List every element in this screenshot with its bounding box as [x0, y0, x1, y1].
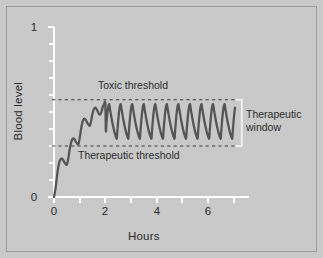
x-axis-title: Hours	[128, 230, 160, 242]
x-tick-label-2: 2	[99, 205, 111, 217]
therapeutic-threshold-label: Therapeutic threshold	[78, 149, 180, 161]
therapeutic-window-line-1: Therapeutic	[246, 108, 301, 120]
figure: Blood level Hours 1 0 0 2 4 6 Toxic thre…	[0, 0, 323, 258]
x-tick-label-6: 6	[202, 205, 214, 217]
therapeutic-window-label: Therapeutic window	[246, 108, 301, 133]
axes-group	[48, 27, 249, 203]
y-tick-label-1: 1	[28, 21, 40, 33]
bracket-path	[236, 100, 242, 146]
toxic-threshold-label: Toxic threshold	[98, 79, 168, 91]
therapeutic-window-line-2: window	[246, 121, 281, 133]
y-axis-title: Blood level	[12, 82, 26, 140]
x-tick-label-4: 4	[151, 205, 163, 217]
x-tick-label-0: 0	[48, 205, 60, 217]
y-tick-label-0: 0	[28, 191, 40, 203]
therapeutic-window-bracket	[236, 100, 242, 146]
